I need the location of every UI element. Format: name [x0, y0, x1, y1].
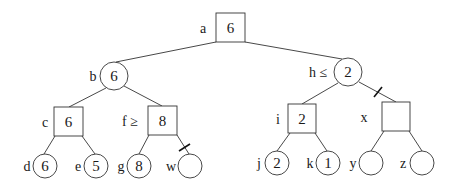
node-z: z [400, 151, 434, 175]
svg-text:f ≥: f ≥ [122, 114, 138, 129]
node-c: 6 c [42, 107, 83, 136]
svg-text:2: 2 [298, 111, 306, 127]
edge-a-b [116, 42, 216, 62]
svg-text:k: k [307, 156, 314, 171]
svg-text:z: z [400, 156, 406, 171]
edge-h-i [302, 83, 338, 104]
edge-x-z [409, 131, 422, 151]
svg-text:1: 1 [324, 155, 332, 171]
edge-i-k [315, 133, 327, 151]
game-tree-diagram: 6 a 6 b 2 h ≤ 6 c 8 f ≥ 2 i x 6 d [0, 0, 457, 192]
svg-text:6: 6 [41, 158, 49, 174]
node-f: 8 f ≥ [122, 106, 177, 135]
edge-f-w [177, 135, 189, 154]
svg-text:2: 2 [273, 155, 281, 171]
edge-a-h [245, 42, 342, 59]
prune-mark-f-w [179, 144, 190, 151]
svg-text:5: 5 [92, 158, 100, 174]
svg-text:c: c [42, 115, 48, 130]
prune-mark-h-x [374, 87, 382, 97]
svg-text:g: g [118, 159, 125, 174]
node-x: x [361, 102, 411, 131]
node-y: y [350, 151, 384, 175]
node-b: 6 b [90, 62, 129, 90]
svg-text:h ≤: h ≤ [309, 65, 328, 80]
edge-i-j [277, 133, 290, 151]
svg-text:8: 8 [159, 113, 167, 129]
node-g: 8 g [118, 154, 152, 178]
svg-text:i: i [276, 112, 280, 127]
svg-text:e: e [75, 159, 81, 174]
svg-text:6: 6 [110, 68, 118, 84]
svg-text:6: 6 [227, 20, 235, 36]
svg-text:d: d [24, 159, 31, 174]
svg-text:8: 8 [135, 158, 143, 174]
svg-text:a: a [200, 21, 207, 36]
svg-text:y: y [350, 156, 357, 171]
edge-c-d [44, 136, 55, 154]
node-d: 6 d [24, 154, 58, 178]
edge-b-f [124, 86, 162, 106]
svg-text:2: 2 [344, 64, 352, 80]
svg-text:x: x [361, 110, 368, 125]
node-i: 2 i [276, 104, 316, 133]
edge-x-y [371, 131, 384, 151]
node-w: w [166, 154, 202, 178]
svg-text:j: j [256, 156, 261, 171]
edge-b-c [69, 88, 106, 107]
edge-f-g [139, 135, 149, 154]
node-a: 6 a [200, 13, 245, 42]
edges [44, 42, 422, 154]
svg-text:b: b [90, 69, 97, 84]
node-e: 5 e [75, 154, 108, 178]
svg-text:6: 6 [65, 114, 73, 130]
svg-text:w: w [166, 159, 177, 174]
node-j: 2 j [256, 151, 289, 175]
node-h: 2 h ≤ [309, 58, 362, 86]
edge-c-e [82, 136, 95, 154]
node-k: 1 k [307, 151, 341, 175]
